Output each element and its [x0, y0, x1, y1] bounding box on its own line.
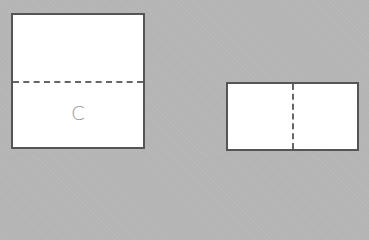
- figure-label-c: C: [13, 101, 143, 125]
- vertical-dashed-fold-line: [292, 84, 294, 149]
- horizontal-dashed-fold-line: [13, 81, 143, 83]
- square-figure: C: [11, 13, 145, 149]
- rectangle-figure: [226, 82, 359, 151]
